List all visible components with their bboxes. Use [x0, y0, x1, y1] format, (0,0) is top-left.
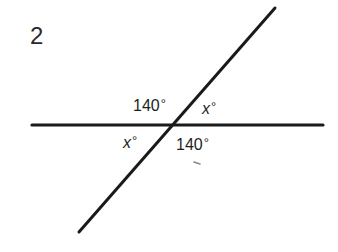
angle-label-upper-left: 140° [133, 97, 166, 114]
degree-symbol: ° [204, 135, 209, 150]
angle-value: 140 [176, 136, 203, 153]
degree-symbol: ° [132, 133, 137, 148]
degree-symbol: ° [161, 96, 166, 111]
angle-variable: x [123, 134, 131, 151]
intersecting-lines-figure [0, 0, 338, 252]
degree-symbol: ° [211, 99, 216, 114]
diagonal-line [79, 8, 275, 232]
angle-value: 140 [133, 97, 160, 114]
stray-mark [194, 162, 200, 164]
angle-variable: x [202, 100, 210, 117]
problem-number: 2 [30, 24, 43, 48]
angle-label-lower-right: 140° [176, 136, 209, 153]
angle-label-lower-left: x° [123, 134, 137, 151]
angle-label-upper-right: x° [202, 100, 216, 117]
